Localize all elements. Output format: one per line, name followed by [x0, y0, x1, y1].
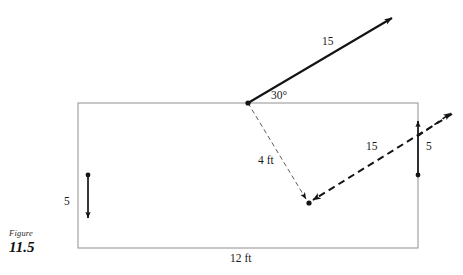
rebound-exit-arrow — [418, 113, 451, 136]
incoming-magnitude-label: 15 — [322, 36, 334, 48]
left-dimension-top-dot — [86, 173, 91, 178]
figure-caption-number: 11.5 — [9, 240, 34, 255]
impact-vertex-dot — [245, 100, 250, 105]
figure-11-5: 15 30° 4 ft 15 5 5 12 ft Figure 11.5 — [0, 0, 463, 275]
right-dimension-bottom-dot — [416, 173, 421, 178]
left-dimension-label: 5 — [64, 196, 70, 208]
lower-vertex-dot — [306, 200, 311, 205]
right-dimension-label: 5 — [426, 141, 432, 153]
figure-caption: Figure 11.5 — [9, 229, 34, 255]
outgoing-magnitude-label: 15 — [366, 141, 378, 153]
figure-drawing-canvas — [0, 0, 463, 275]
table-outline — [78, 103, 418, 248]
normal-offset-dashed-line — [248, 103, 306, 199]
bottom-dimension-label: 12 ft — [230, 253, 251, 265]
incoming-shot-arrow — [248, 18, 392, 103]
incident-angle-label: 30° — [271, 90, 287, 102]
normal-offset-label: 4 ft — [258, 155, 274, 167]
figure-caption-word: Figure — [9, 229, 34, 238]
